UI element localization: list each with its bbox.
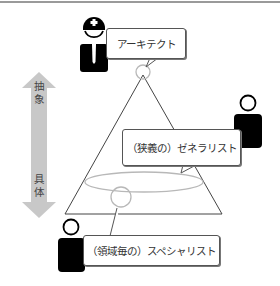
concrete-char-1: 具 xyxy=(32,173,46,186)
generalist-callout-tail xyxy=(181,165,196,173)
generalist-callout: （狭義の）ゼネラリスト xyxy=(122,129,241,166)
concrete-char-2: 体 xyxy=(32,186,46,199)
specialist-callout-tail xyxy=(110,208,122,236)
specialist-callout: （領域毎の）スペシャリスト xyxy=(83,235,220,266)
abstract-char-2: 象 xyxy=(32,93,46,106)
architect-callout: アーキテクト xyxy=(106,28,186,59)
architect-person-icon xyxy=(80,17,108,72)
architect-focus-circle xyxy=(136,65,150,79)
concrete-label: 具 体 xyxy=(32,173,46,199)
specialist-person-icon xyxy=(58,220,85,273)
specialist-focus-circle xyxy=(111,187,131,207)
architect-callout-tail xyxy=(146,58,158,67)
generalist-layer-ellipse xyxy=(85,172,203,192)
abstract-label: 抽 象 xyxy=(32,80,46,106)
abstract-char-1: 抽 xyxy=(32,80,46,93)
